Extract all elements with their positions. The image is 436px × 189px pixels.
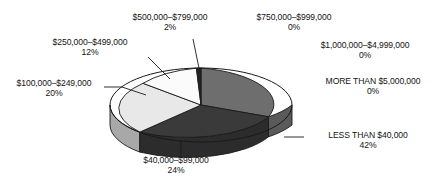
slice-label-500k-799k: $500,000–$799,000 2% [118, 12, 222, 32]
slice-label-more-than-5m: MORE THAN $5,000,000 0% [312, 76, 434, 96]
slice-label-1m-4999k-name: $1,000,000–$4,999,000 [306, 40, 424, 50]
slice-label-40k-99k-name: $40,000–$99,000 [124, 155, 228, 165]
slice-label-500k-799k-name: $500,000–$799,000 [118, 12, 222, 22]
slice-label-1m-4999k: $1,000,000–$4,999,000 0% [306, 40, 424, 60]
slice-label-40k-99k: $40,000–$99,000 24% [124, 155, 228, 175]
slice-label-less-than-40k: LESS THAN $40,000 42% [306, 130, 430, 150]
slice-label-750k-999k-name: $750,000–$999,000 [242, 12, 346, 22]
slice-label-750k-999k-pct: 0% [242, 22, 346, 32]
slice-label-500k-799k-pct: 2% [118, 22, 222, 32]
slice-label-1m-4999k-pct: 0% [306, 50, 424, 60]
slice-label-250k-499k-name: $250,000–$499,000 [38, 37, 142, 47]
slice-label-less-than-40k-name: LESS THAN $40,000 [306, 130, 430, 140]
slice-label-750k-999k: $750,000–$999,000 0% [242, 12, 346, 32]
slice-label-less-than-40k-pct: 42% [306, 140, 430, 150]
slice-label-100k-249k: $100,000–$249,000 20% [4, 78, 104, 98]
slice-label-100k-249k-pct: 20% [4, 88, 104, 98]
slice-label-more-than-5m-pct: 0% [312, 86, 434, 96]
slice-label-more-than-5m-name: MORE THAN $5,000,000 [312, 76, 434, 86]
slice-label-250k-499k-pct: 12% [38, 47, 142, 57]
pie-top-face [110, 68, 292, 142]
slice-label-250k-499k: $250,000–$499,000 12% [38, 37, 142, 57]
slice-label-40k-99k-pct: 24% [124, 165, 228, 175]
pie-chart-figure: $500,000–$799,000 2% $250,000–$499,000 1… [0, 0, 436, 189]
slice-label-100k-249k-name: $100,000–$249,000 [4, 78, 104, 88]
